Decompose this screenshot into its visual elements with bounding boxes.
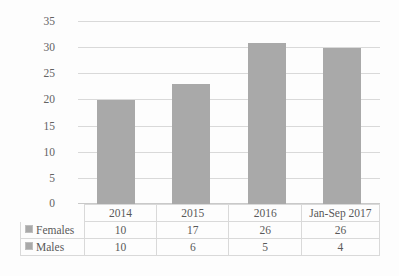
cell-males-2016: 5 xyxy=(229,239,301,256)
table-row-females: Females 10 17 26 26 xyxy=(21,222,380,239)
table-header-row: 2014 2015 2016 Jan-Sep 2017 xyxy=(21,205,380,222)
cell-females-2016: 26 xyxy=(229,222,301,239)
ytick-label-10: 10 xyxy=(15,147,55,159)
bar-slot-2016 xyxy=(229,21,305,204)
bar-slot-2014 xyxy=(78,21,154,204)
ytick-label-30: 30 xyxy=(15,42,55,54)
cell-females-2014: 10 xyxy=(84,222,156,239)
legend-label-males: Males xyxy=(36,240,64,255)
table-header-2015: 2015 xyxy=(157,205,229,222)
ytick-label-20: 20 xyxy=(15,94,55,106)
cell-females-jan-sep-2017: 26 xyxy=(301,222,379,239)
table-header-jan-sep-2017: Jan-Sep 2017 xyxy=(301,205,379,222)
table-header-2014: 2014 xyxy=(84,205,156,222)
bar-2016 xyxy=(248,43,286,204)
table-header-2016: 2016 xyxy=(229,205,301,222)
legend-swatch-icon xyxy=(25,225,33,233)
chart-data-table: 2014 2015 2016 Jan-Sep 2017 Females 10 1… xyxy=(20,204,380,256)
bar-2014 xyxy=(97,100,135,204)
legend-swatch-icon xyxy=(25,242,33,250)
legend-label-females: Females xyxy=(36,223,74,238)
cell-males-jan-sep-2017: 4 xyxy=(301,239,379,256)
cell-females-2015: 17 xyxy=(157,222,229,239)
legend-item-males: Males xyxy=(21,239,85,256)
bar-chart-with-data-table: 35 30 25 20 15 10 5 0 2014 2015 2016 Jan xyxy=(0,0,399,276)
ytick-label-5: 5 xyxy=(15,173,55,185)
bar-slot-2015 xyxy=(154,21,230,204)
cell-males-2014: 10 xyxy=(84,239,156,256)
cell-males-2015: 6 xyxy=(157,239,229,256)
ytick-label-35: 35 xyxy=(15,16,55,28)
legend-item-females: Females xyxy=(21,222,85,239)
ytick-label-15: 15 xyxy=(15,121,55,133)
table-row-males: Males 10 6 5 4 xyxy=(21,239,380,256)
plot-area: 35 30 25 20 15 10 5 0 xyxy=(78,21,380,204)
bar-2015 xyxy=(172,84,210,204)
bar-jan-sep-2017 xyxy=(323,48,361,204)
bar-slot-jan-sep-2017 xyxy=(305,21,381,204)
table-header-corner xyxy=(21,205,85,222)
ytick-label-25: 25 xyxy=(15,68,55,80)
